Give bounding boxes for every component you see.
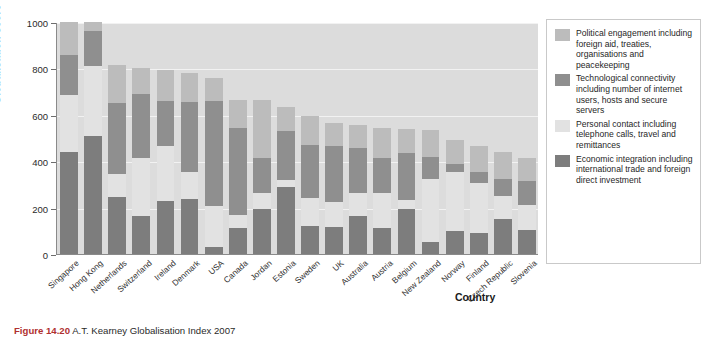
- bar-segment-economic-integration: [373, 228, 391, 254]
- bar-segment-political-engagement: [325, 123, 343, 146]
- bar-segment-personal-contact: [518, 205, 536, 229]
- bar-sweden[interactable]: [301, 116, 319, 254]
- bar-segment-economic-integration: [470, 233, 488, 254]
- bar-segment-technological-connectivity: [181, 102, 199, 172]
- plot-area: [56, 23, 538, 255]
- figure-caption: Figure 14.20 A.T. Kearney Globalisation …: [14, 325, 235, 336]
- y-axis-tick-label: 800: [4, 64, 48, 75]
- caption-text: A.T. Kearney Globalisation Index 2007: [72, 325, 235, 336]
- bar-segment-personal-contact: [229, 215, 247, 229]
- bar-segment-political-engagement: [229, 100, 247, 128]
- bar-segment-political-engagement: [277, 107, 295, 131]
- bar-singapore[interactable]: [60, 22, 78, 254]
- bar-netherlands[interactable]: [108, 65, 126, 254]
- bar-new-zealand[interactable]: [422, 130, 440, 254]
- legend-item-label: Personal contact including telephone cal…: [576, 119, 694, 151]
- bar-segment-technological-connectivity: [518, 181, 536, 205]
- bar-segment-personal-contact: [157, 146, 175, 201]
- bar-segment-economic-integration: [325, 227, 343, 254]
- bar-segment-technological-connectivity: [446, 164, 464, 172]
- bar-canada[interactable]: [229, 100, 247, 254]
- bar-segment-personal-contact: [84, 66, 102, 136]
- y-axis-tick-label: 1000: [4, 18, 48, 29]
- bar-uk[interactable]: [325, 123, 343, 254]
- bar-segment-political-engagement: [108, 65, 126, 103]
- bar-czech-republic[interactable]: [494, 152, 512, 254]
- legend-item[interactable]: Technological connectivity including num…: [555, 73, 694, 115]
- bar-belgium[interactable]: [398, 129, 416, 254]
- bar-segment-economic-integration: [181, 199, 199, 254]
- bar-segment-economic-integration: [494, 219, 512, 254]
- bar-segment-technological-connectivity: [205, 101, 223, 207]
- bar-finland[interactable]: [470, 146, 488, 254]
- bar-segment-economic-integration: [229, 228, 247, 254]
- bar-segment-technological-connectivity: [132, 94, 150, 158]
- bar-estonia[interactable]: [277, 107, 295, 254]
- bar-segment-economic-integration: [205, 247, 223, 254]
- bar-segment-economic-integration: [84, 136, 102, 254]
- y-axis-tick-mark: [51, 116, 56, 117]
- bar-switzerland[interactable]: [132, 68, 150, 254]
- bar-segment-technological-connectivity: [277, 131, 295, 180]
- bar-segment-personal-contact: [470, 183, 488, 233]
- bar-jordan[interactable]: [253, 100, 271, 254]
- legend-item-label: Economic integration including internati…: [576, 154, 694, 186]
- bar-segment-economic-integration: [277, 187, 295, 254]
- y-axis-tick-label: 400: [4, 157, 48, 168]
- legend-item-label: Political engagement including foreign a…: [576, 28, 694, 70]
- bar-segment-economic-integration: [253, 209, 271, 254]
- bar-segment-technological-connectivity: [229, 128, 247, 215]
- bar-series-container: [57, 23, 538, 254]
- bar-segment-political-engagement: [181, 73, 199, 102]
- y-axis-tick-label: 0: [4, 250, 48, 261]
- legend-item[interactable]: Personal contact including telephone cal…: [555, 119, 694, 151]
- bar-slovenia[interactable]: [518, 158, 536, 254]
- bar-segment-political-engagement: [398, 129, 416, 153]
- bar-segment-economic-integration: [301, 226, 319, 254]
- bar-segment-political-engagement: [373, 128, 391, 158]
- bar-segment-personal-contact: [373, 193, 391, 229]
- bar-segment-personal-contact: [494, 196, 512, 219]
- x-axis-tick-label: Slovenia: [509, 258, 539, 287]
- bar-segment-technological-connectivity: [470, 172, 488, 184]
- legend-item[interactable]: Economic integration including internati…: [555, 154, 694, 186]
- bar-segment-personal-contact: [60, 95, 78, 152]
- figure-globalisation-index: Globalisation score 02004006008001000 Si…: [0, 0, 707, 340]
- bar-segment-personal-contact: [422, 179, 440, 243]
- bar-segment-personal-contact: [253, 193, 271, 209]
- bar-denmark[interactable]: [181, 73, 199, 254]
- bar-segment-political-engagement: [301, 116, 319, 145]
- bar-segment-political-engagement: [157, 70, 175, 101]
- y-axis-tick-label: 200: [4, 203, 48, 214]
- bar-australia[interactable]: [349, 125, 367, 254]
- x-axis-tick-label: UK: [331, 258, 346, 273]
- bar-segment-personal-contact: [205, 206, 223, 247]
- y-axis-tick-mark: [51, 255, 56, 256]
- bar-segment-technological-connectivity: [325, 146, 343, 202]
- legend-item[interactable]: Political engagement including foreign a…: [555, 28, 694, 70]
- bar-segment-technological-connectivity: [422, 157, 440, 179]
- bar-segment-personal-contact: [277, 180, 295, 187]
- bar-segment-economic-integration: [422, 242, 440, 254]
- bar-segment-economic-integration: [398, 209, 416, 254]
- bar-norway[interactable]: [446, 140, 464, 254]
- y-axis-tick-mark: [51, 23, 56, 24]
- y-axis-tick-mark: [51, 162, 56, 163]
- bar-segment-personal-contact: [132, 158, 150, 216]
- x-axis-tick-label: Jordan: [248, 258, 274, 282]
- bar-segment-political-engagement: [518, 158, 536, 181]
- bar-usa[interactable]: [205, 78, 223, 254]
- bar-segment-technological-connectivity: [494, 179, 512, 196]
- x-axis-title: Country: [455, 291, 495, 303]
- bar-segment-personal-contact: [398, 200, 416, 209]
- bar-segment-personal-contact: [301, 198, 319, 226]
- legend-swatch-icon: [555, 155, 570, 167]
- bar-hong-kong[interactable]: [84, 22, 102, 254]
- bar-ireland[interactable]: [157, 70, 175, 254]
- y-axis-tick-mark: [51, 69, 56, 70]
- bar-segment-technological-connectivity: [253, 158, 271, 193]
- bar-austria[interactable]: [373, 128, 391, 254]
- bar-segment-political-engagement: [422, 130, 440, 157]
- bar-segment-economic-integration: [108, 197, 126, 254]
- x-axis-tick-label: Sweden: [293, 258, 322, 285]
